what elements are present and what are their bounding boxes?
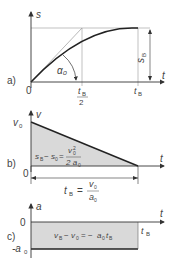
panel-b: v v 0 t b) 0 s B − s 0 = v 2 0 2 a 0 t B… [7,109,164,203]
half-t-label: t [78,86,81,96]
svg-text:B: B [138,91,142,97]
svg-text:= −: = − [81,231,93,240]
svg-text:0: 0 [78,162,81,168]
svg-text:0: 0 [24,249,28,255]
svg-text:0: 0 [19,123,23,129]
svg-text:0: 0 [94,184,97,190]
svg-text:B: B [69,191,73,197]
svg-text:0: 0 [102,235,105,241]
a-axis-label: a [36,201,42,212]
neg-a0-label: -a [12,243,21,254]
svg-text:− s: − s [44,152,55,161]
svg-text:t: t [64,185,68,196]
t-axis-label-c: t [160,208,164,219]
svg-text:=: = [77,185,83,196]
panel-c: a t 0 c) -a 0 t B v B − v 0 = − a 0 t B [7,201,164,258]
svg-text:−: − [64,231,69,240]
svg-text:0: 0 [76,235,79,241]
angle-label: α₀ [57,65,67,76]
origin-b: 0 [23,168,29,179]
panel-a: s t a) 0 α₀ t B 2 t B s B [7,9,166,107]
v-axis-label: v [36,109,42,120]
t-axis-label-b: t [160,153,164,164]
svg-text:s: s [35,152,39,161]
svg-text:B: B [146,231,150,237]
panel-a-label: a) [7,75,16,86]
t-axis-label-a: t [162,70,166,81]
svg-text:0: 0 [55,156,58,162]
svg-text:B: B [141,53,147,57]
s-axis-label: s [36,9,41,20]
position-curve [31,28,138,82]
svg-text:0: 0 [73,150,76,156]
panel-c-label: c) [7,231,15,242]
sB-label: s [135,58,146,63]
svg-text:2: 2 [79,98,84,107]
svg-text:B: B [82,91,86,97]
tB-formula: t B = v 0 a 0 [64,179,99,203]
origin-a: 0 [26,85,32,96]
tB-label-c: t [141,226,144,236]
kinematics-diagram: s t a) 0 α₀ t B 2 t B s B v v 0 t b) 0 [0,0,178,272]
zero-label-c: 0 [20,217,26,228]
tB-label-a: t [134,86,137,96]
svg-text:=: = [59,152,64,161]
svg-text:2 a: 2 a [65,158,78,167]
panel-b-label: b) [7,158,16,169]
svg-text:0: 0 [94,197,97,203]
